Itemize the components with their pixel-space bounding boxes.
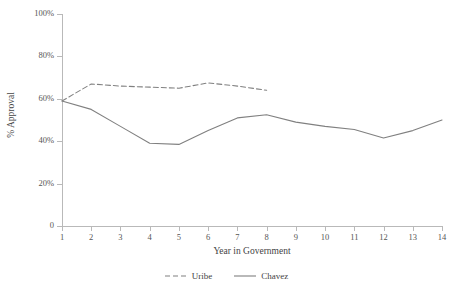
legend-label-chavez: Chavez xyxy=(261,272,288,281)
series-line-chavez xyxy=(62,101,442,144)
series-line-uribe xyxy=(62,83,267,101)
legend-entry-uribe: Uribe xyxy=(165,272,213,281)
legend-entry-chavez: Chavez xyxy=(234,272,288,281)
plot-area xyxy=(0,0,453,292)
approval-line-chart: 020%40%60%80%100% 1234567891011121314 % … xyxy=(0,0,453,292)
chart-legend: Uribe Chavez xyxy=(0,268,453,284)
dashed-line-icon xyxy=(165,272,187,280)
solid-line-icon xyxy=(234,272,256,280)
legend-label-uribe: Uribe xyxy=(192,272,213,281)
